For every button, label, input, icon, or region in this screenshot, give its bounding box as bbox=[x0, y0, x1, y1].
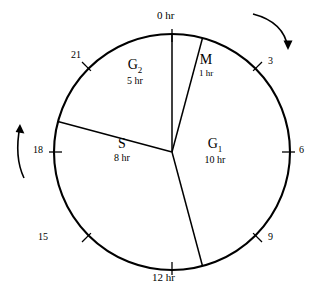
direction-arrow-top-right-icon bbox=[253, 14, 293, 50]
cell-cycle-svg bbox=[0, 0, 318, 289]
hour-label-18: 18 bbox=[33, 145, 43, 155]
direction-arrow-left-icon bbox=[16, 124, 25, 178]
phase-m-name: M bbox=[186, 52, 226, 68]
phase-m-duration: 1 hr bbox=[186, 68, 226, 78]
hour-label-21: 21 bbox=[71, 50, 81, 60]
phase-s-duration: 8 hr bbox=[92, 152, 152, 164]
hour-label-6: 6 bbox=[299, 145, 304, 155]
phase-label-g1: G1 10 hr bbox=[185, 136, 245, 166]
hour-label-12: 12 hr bbox=[152, 272, 175, 283]
divider-g1-end-s-start bbox=[172, 152, 203, 266]
phase-label-m: M 1 hr bbox=[186, 52, 226, 78]
hour-label-0: 0 hr bbox=[157, 10, 174, 21]
phase-s-name: S bbox=[92, 136, 152, 152]
hour-label-3: 3 bbox=[268, 56, 273, 66]
phase-label-s: S 8 hr bbox=[92, 136, 152, 164]
cell-cycle-diagram: 0 hr 3 6 9 12 hr 15 18 21 M 1 hr G1 10 h… bbox=[0, 0, 318, 289]
phase-g2-duration: 5 hr bbox=[105, 75, 165, 87]
phase-g1-name: G1 bbox=[185, 136, 245, 154]
phase-g1-duration: 10 hr bbox=[185, 154, 245, 166]
hour-label-15: 15 bbox=[38, 232, 48, 242]
hour-label-9: 9 bbox=[268, 232, 273, 242]
phase-label-g2: G2 5 hr bbox=[105, 57, 165, 87]
phase-g2-name: G2 bbox=[105, 57, 165, 75]
